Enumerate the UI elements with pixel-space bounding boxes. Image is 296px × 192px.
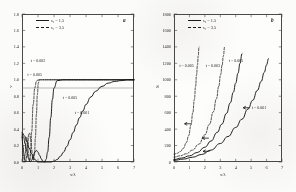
x-tick-label: 7 (131, 165, 137, 170)
x-tick-label: 1 (186, 165, 192, 170)
curve-annotation-label: t = 0.005 (28, 72, 42, 77)
curve-annotation-label: t = 0.001 (252, 105, 266, 110)
y-tick-label: 1.6 (3, 28, 19, 33)
y-tick-label: 1400 (155, 44, 171, 49)
x-tick-label: 2 (51, 165, 57, 170)
curve-annotation-label: t = 0.002 (31, 58, 45, 63)
data-series-line (22, 80, 134, 162)
x-tick-label: 0 (171, 165, 177, 170)
y-tick-label: 1800 (155, 12, 171, 17)
y-tick-label: 0.8 (3, 94, 19, 99)
x-tick-label: 7 (279, 165, 285, 170)
y-tick-label: 1.8 (3, 12, 19, 17)
x-tick-label: 5 (248, 165, 254, 170)
y-tick-label: 0 (155, 160, 171, 165)
y-tick-label: 1.4 (3, 44, 19, 49)
x-tick-label: 4 (233, 165, 239, 170)
y-tick-label: 400 (155, 127, 171, 132)
curve-annotation-label: t = 0.005 (179, 63, 193, 68)
figure-root: v x/λ a s₂ = 1.5 s₁ = 3.5 012345670.00.2… (0, 0, 296, 192)
pointer-arrow-icon (202, 137, 209, 140)
x-tick-label: 6 (264, 165, 270, 170)
y-tick-label: 1600 (155, 28, 171, 33)
y-tick-label: 1.2 (3, 61, 19, 66)
x-tick-label: 2 (202, 165, 208, 170)
y-tick-label: 600 (155, 110, 171, 115)
x-tick-label: 1 (35, 165, 41, 170)
data-series-line (174, 53, 242, 159)
y-tick-label: 1200 (155, 61, 171, 66)
x-tick-label: 4 (83, 165, 89, 170)
y-tick-label: 800 (155, 94, 171, 99)
panel-a: v x/λ a s₂ = 1.5 s₁ = 3.5 012345670.00.2… (0, 0, 148, 192)
y-tick-label: 0.2 (3, 143, 19, 148)
pointer-arrow-icon (185, 122, 192, 125)
x-tick-label: 5 (99, 165, 105, 170)
curve-annotation-label: t = 0.003 (206, 63, 220, 68)
y-tick-label: 0.4 (3, 127, 19, 132)
y-tick-label: 0.6 (3, 110, 19, 115)
x-tick-label: 0 (19, 165, 25, 170)
x-tick-label: 3 (67, 165, 73, 170)
x-tick-label: 6 (115, 165, 121, 170)
panel-b: S x/λ b s₂ = 1.5 s₁ = 3.5 01234567020040… (148, 0, 296, 192)
y-tick-label: 1000 (155, 77, 171, 82)
x-tick-label: 3 (217, 165, 223, 170)
y-tick-label: 1.0 (3, 77, 19, 82)
y-tick-label: 0.0 (3, 160, 19, 165)
curve-annotation-label: t = 0.001 (75, 110, 89, 115)
y-tick-label: 200 (155, 143, 171, 148)
curve-annotation-label: t = 0.005 (63, 95, 77, 100)
curve-annotation-label: t = 0.005 (229, 58, 243, 63)
